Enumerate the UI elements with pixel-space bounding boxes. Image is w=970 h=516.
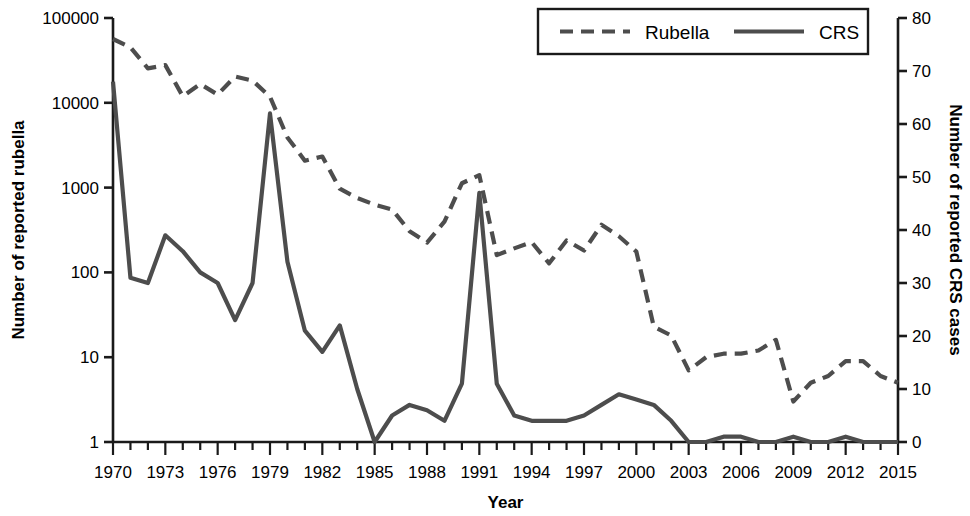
right-axis-tick-label: 0 <box>912 433 921 452</box>
right-axis-tick-label: 20 <box>912 327 931 346</box>
x-axis-tick-label: 2012 <box>827 463 865 482</box>
legend-label-rubella: Rubella <box>645 22 710 43</box>
series-line-rubella <box>113 39 898 402</box>
x-axis-tick-label: 1970 <box>94 463 132 482</box>
legend-label-crs: CRS <box>819 22 859 43</box>
x-axis-tick-label: 1988 <box>408 463 446 482</box>
x-axis-tick-label: 1976 <box>199 463 237 482</box>
rubella-crs-chart-figure: 1101001000100001000000102030405060708019… <box>0 0 970 516</box>
right-axis-tick-label: 30 <box>912 274 931 293</box>
x-axis-title: Year <box>488 493 524 512</box>
series-line-crs <box>113 82 898 442</box>
right-axis-tick-label: 40 <box>912 221 931 240</box>
x-axis-tick-label: 1991 <box>460 463 498 482</box>
x-axis-tick-label: 1982 <box>303 463 341 482</box>
right-axis-tick-label: 50 <box>912 168 931 187</box>
x-axis-tick-label: 1997 <box>565 463 603 482</box>
left-axis-tick-label: 1000 <box>61 179 99 198</box>
x-axis-tick-label: 1994 <box>513 463 551 482</box>
chart-canvas: 1101001000100001000000102030405060708019… <box>0 0 970 516</box>
x-axis-tick-label: 2009 <box>774 463 812 482</box>
left-axis-tick-label: 1 <box>90 433 99 452</box>
right-axis-tick-label: 70 <box>912 62 931 81</box>
x-axis-tick-label: 1979 <box>251 463 289 482</box>
x-axis-tick-label: 2006 <box>722 463 760 482</box>
left-axis-tick-label: 100 <box>71 263 99 282</box>
x-axis-tick-label: 1973 <box>146 463 184 482</box>
right-axis-tick-label: 10 <box>912 380 931 399</box>
left-axis-tick-label: 10000 <box>52 94 99 113</box>
x-axis-tick-label: 2000 <box>617 463 655 482</box>
left-axis-tick-label: 10 <box>80 348 99 367</box>
right-axis-tick-label: 60 <box>912 115 931 134</box>
left-axis-tick-label: 100000 <box>42 9 99 28</box>
x-axis-tick-label: 2015 <box>879 463 917 482</box>
right-axis-tick-label: 80 <box>912 9 931 28</box>
x-axis-tick-label: 2003 <box>670 463 708 482</box>
y-axis-title: Number of reported rubella <box>9 120 28 340</box>
y2-axis-title: Number of reported CRS cases <box>946 104 965 355</box>
x-axis-tick-label: 1985 <box>356 463 394 482</box>
